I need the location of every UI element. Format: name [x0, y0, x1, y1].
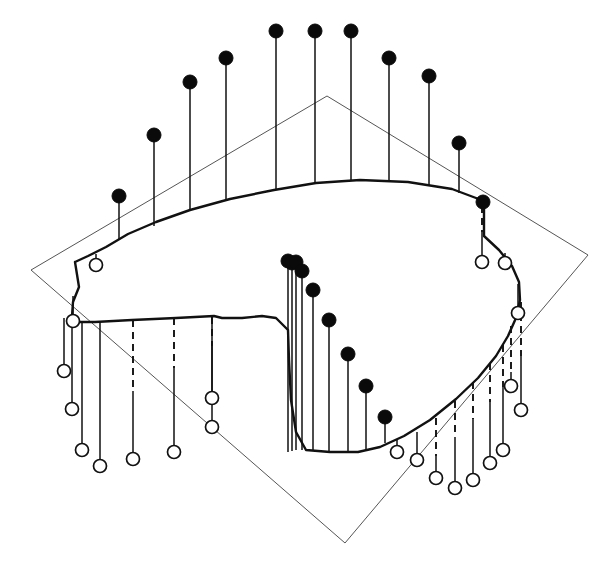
data-marker-above: [359, 379, 373, 393]
data-marker-above: [344, 24, 358, 38]
data-marker-above: [295, 264, 309, 278]
data-marker-below: [499, 257, 512, 270]
data-marker-below: [90, 259, 103, 272]
data-marker-above: [322, 313, 336, 327]
data-marker-below: [206, 421, 219, 434]
data-marker-below: [449, 482, 462, 495]
data-marker-below: [430, 472, 443, 485]
reference-plane: [31, 96, 588, 543]
data-marker-above: [382, 51, 396, 65]
data-marker-below: [512, 307, 525, 320]
data-marker-below: [484, 457, 497, 470]
data-marker-above: [112, 189, 126, 203]
data-marker-below: [94, 460, 107, 473]
data-marker-below: [168, 446, 181, 459]
data-marker-below: [515, 404, 528, 417]
data-marker-above: [306, 283, 320, 297]
data-marker-below: [127, 453, 140, 466]
data-marker-above: [269, 24, 283, 38]
data-marker-above: [183, 75, 197, 89]
data-marker-below: [476, 256, 489, 269]
above-plane-markers-group: [112, 24, 490, 424]
data-marker-below: [505, 380, 518, 393]
data-marker-above: [476, 195, 490, 209]
data-marker-below: [206, 392, 219, 405]
data-marker-above: [422, 69, 436, 83]
data-marker-below: [391, 446, 404, 459]
data-marker-above: [341, 347, 355, 361]
data-marker-below: [497, 444, 510, 457]
data-marker-below: [58, 365, 71, 378]
data-marker-below: [76, 444, 89, 457]
data-marker-below: [66, 403, 79, 416]
data-marker-above: [378, 410, 392, 424]
stem-plot-figure: [0, 0, 612, 572]
data-marker-above: [147, 128, 161, 142]
three-dimensional-stem-plot: [0, 0, 612, 572]
data-marker-below: [467, 474, 480, 487]
data-marker-above: [219, 51, 233, 65]
data-marker-below: [411, 454, 424, 467]
data-marker-above: [308, 24, 322, 38]
reference-plane-group: [31, 96, 588, 543]
data-marker-above: [452, 136, 466, 150]
data-marker-below: [67, 315, 80, 328]
